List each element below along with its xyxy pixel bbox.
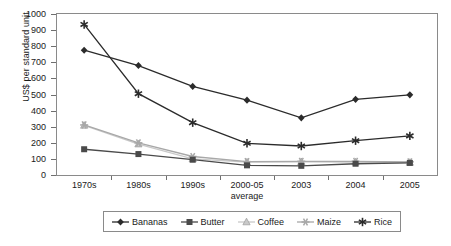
data-point-square [81, 146, 87, 152]
chart-container: US$ per standard unit 010020030040050060… [0, 0, 451, 246]
legend-marker-star-icon [297, 217, 314, 227]
data-point-square [298, 163, 304, 169]
data-point-square [353, 161, 359, 167]
x-tick-line1: 2005 [373, 180, 447, 191]
x-tick-mark [328, 176, 329, 180]
y-tick-label: 300 [12, 123, 46, 132]
x-tick-mark [383, 176, 384, 180]
x-tick-label: 2005 [373, 180, 447, 191]
y-tick-label: 800 [12, 42, 46, 51]
data-point-diamond [352, 96, 359, 103]
plot-area [56, 13, 438, 176]
legend-label: Bananas [132, 217, 168, 227]
x-tick-mark [111, 176, 112, 180]
x-tick-mark [220, 176, 221, 180]
chart-legend: BananasButterCoffeeMaizeRice [103, 211, 401, 232]
data-point-diamond [81, 47, 88, 54]
legend-item-coffee[interactable]: Coffee [238, 217, 284, 227]
y-tick-label: 0 [12, 171, 46, 180]
series-rice [81, 20, 414, 150]
data-point-square [190, 157, 196, 163]
data-point-square [135, 151, 141, 157]
data-point-diamond [406, 91, 413, 98]
legend-item-bananas[interactable]: Bananas [112, 217, 168, 227]
y-tick-label: 700 [12, 58, 46, 67]
series-lines [57, 14, 437, 175]
legend-item-butter[interactable]: Butter [181, 217, 225, 227]
y-tick-label: 600 [12, 74, 46, 83]
y-tick-label: 100 [12, 155, 46, 164]
legend-item-rice[interactable]: Rice [354, 217, 392, 227]
x-tick-line2: average [210, 191, 284, 202]
legend-marker-diamond-icon [112, 217, 129, 227]
data-point-asterisk [189, 118, 196, 126]
data-point-diamond [135, 62, 142, 69]
legend-label: Coffee [258, 217, 284, 227]
y-tick-label: 900 [12, 26, 46, 35]
series-line [84, 50, 410, 118]
x-tick-mark [166, 176, 167, 180]
legend-marker-triangle-icon [238, 217, 255, 227]
data-point-diamond [117, 218, 124, 225]
legend-label: Maize [317, 217, 341, 227]
data-point-square [407, 160, 413, 166]
legend-marker-square-icon [181, 217, 198, 227]
x-tick-mark [274, 176, 275, 180]
legend-label: Butter [201, 217, 225, 227]
data-point-diamond [244, 97, 251, 104]
legend-label: Rice [374, 217, 392, 227]
y-tick-label: 200 [12, 139, 46, 148]
data-point-diamond [189, 83, 196, 90]
y-tick-label: 1000 [12, 10, 46, 19]
data-point-square [186, 219, 192, 225]
data-point-square [244, 162, 250, 168]
legend-item-maize[interactable]: Maize [297, 217, 341, 227]
legend-marker-asterisk-icon [354, 217, 371, 227]
series-line [84, 24, 410, 146]
data-point-star [301, 218, 309, 225]
series-butter [81, 146, 413, 169]
data-point-diamond [298, 114, 305, 121]
y-tick-label: 400 [12, 107, 46, 116]
y-tick-label: 500 [12, 91, 46, 100]
